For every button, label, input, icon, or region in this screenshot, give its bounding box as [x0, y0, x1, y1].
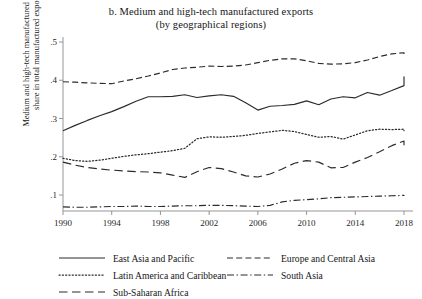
x-tick-label: 1994: [103, 218, 122, 228]
y-tick-label: .4: [50, 75, 57, 85]
series-line: [63, 53, 404, 84]
y-tick-label: .3: [50, 114, 57, 124]
legend-item[interactable]: Sub-Saharan Africa: [58, 284, 226, 299]
legend-label: Sub-Saharan Africa: [113, 287, 188, 298]
data-series-group: [63, 53, 404, 208]
legend-item[interactable]: Europe and Central Asia: [226, 250, 414, 266]
y-axis-ticks: .1.2.3.4.5: [50, 37, 63, 200]
legend-label: Latin America and Caribbean: [113, 270, 226, 281]
x-tick-label: 1998: [151, 218, 170, 228]
x-tick-label: 2010: [298, 218, 317, 228]
series-line: [63, 77, 404, 131]
legend-item[interactable]: Latin America and Caribbean: [58, 267, 226, 283]
series-line: [63, 141, 404, 177]
legend-item[interactable]: East Asia and Pacific: [58, 250, 226, 266]
x-tick-label: 1990: [54, 218, 73, 228]
x-axis-ticks: 19901994199820022006201020142018: [54, 211, 414, 228]
legend-line-sample: [226, 253, 274, 263]
legend-label: East Asia and Pacific: [113, 253, 194, 264]
chart-legend: East Asia and PacificEurope and Central …: [58, 250, 414, 299]
x-tick-label: 2002: [200, 218, 218, 228]
legend-label: South Asia: [281, 270, 323, 281]
x-tick-label: 2018: [395, 218, 414, 228]
legend-item[interactable]: South Asia: [226, 267, 414, 283]
y-tick-label: .5: [50, 37, 57, 47]
series-line: [63, 129, 404, 161]
legend-line-sample: [58, 253, 106, 263]
y-tick-label: .1: [50, 190, 57, 200]
chart-figure: b. Medium and high-tech manufactured exp…: [0, 0, 422, 299]
y-tick-label: .2: [50, 152, 57, 162]
legend-line-sample: [58, 270, 106, 280]
legend-line-sample: [58, 287, 106, 297]
legend-line-sample: [226, 270, 274, 280]
x-tick-label: 2006: [249, 218, 268, 228]
legend-label: Europe and Central Asia: [281, 253, 375, 264]
series-line: [63, 195, 404, 207]
x-tick-label: 2014: [346, 218, 365, 228]
